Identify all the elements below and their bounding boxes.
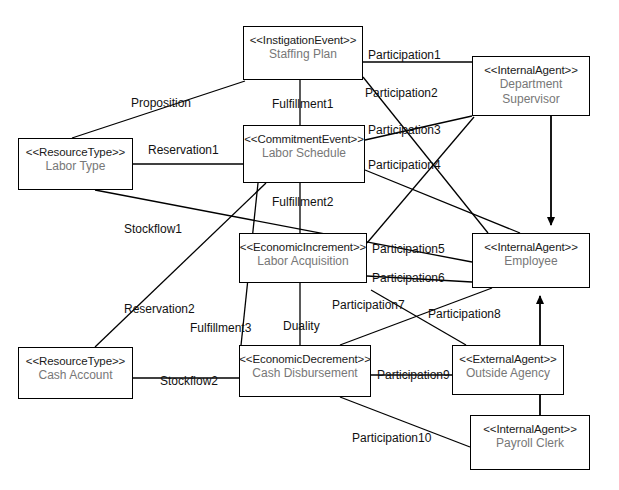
node-cash-account[interactable]: <<ResourceType>> Cash Account — [18, 347, 133, 399]
edge-label-participation6: Participation6 — [372, 272, 445, 285]
edge-label-fulfillment2: Fulfillment2 — [272, 196, 333, 209]
node-stereotype: <<ResourceType>> — [26, 145, 125, 159]
node-stereotype: <<ResourceType>> — [26, 354, 125, 368]
edge-label-fulfillment3: Fulfillment3 — [190, 322, 251, 335]
node-name: Labor Type — [46, 159, 106, 174]
node-stereotype: <<EconomicDecrement>> — [239, 352, 371, 366]
edge-label-participation5: Participation5 — [372, 243, 445, 256]
node-name: Labor Schedule — [262, 146, 346, 161]
edge-label-duality: Duality — [283, 320, 320, 333]
node-stereotype: <<InternalAgent>> — [484, 240, 578, 254]
edge-label-participation10: Participation10 — [352, 432, 431, 445]
node-name: Employee — [504, 254, 557, 269]
node-stereotype: <<ExternalAgent>> — [459, 352, 556, 366]
node-stereotype: <<CommitmentEvent>> — [244, 132, 364, 146]
edge-participation2 — [363, 77, 488, 233]
node-labor-type[interactable]: <<ResourceType>> Labor Type — [18, 138, 133, 190]
node-name-line2: Supervisor — [502, 92, 559, 107]
node-cash-disbursement[interactable]: <<EconomicDecrement>> Cash Disbursement — [239, 345, 371, 397]
node-name: Cash Disbursement — [252, 366, 357, 381]
node-name: Labor Acquisition — [257, 254, 348, 269]
edge-participation4 — [365, 170, 520, 233]
edge-label-participation3: Participation3 — [368, 124, 441, 137]
edge-label-participation7: Participation7 — [332, 299, 405, 312]
node-name: Cash Account — [38, 368, 112, 383]
edge-label-participation8: Participation8 — [428, 308, 501, 321]
edge-label-stockflow2: Stockflow2 — [160, 375, 218, 388]
node-stereotype: <<EconomicIncrement>> — [240, 240, 366, 254]
node-name-line1: Department — [500, 77, 563, 92]
edge-label-participation1: Participation1 — [368, 49, 441, 62]
edge-label-participation4: Participation4 — [368, 159, 441, 172]
node-staffing-plan[interactable]: <<InstigationEvent>> Staffing Plan — [243, 26, 363, 80]
node-labor-acquisition[interactable]: <<EconomicIncrement>> Labor Acquisition — [239, 233, 367, 283]
node-stereotype: <<InternalAgent>> — [483, 422, 577, 436]
edge-label-fulfillment1: Fulfillment1 — [272, 98, 333, 111]
node-name: Staffing Plan — [269, 47, 337, 62]
node-payroll-clerk[interactable]: <<InternalAgent>> Payroll Clerk — [470, 415, 590, 470]
node-outside-agency[interactable]: <<ExternalAgent>> Outside Agency — [452, 345, 564, 395]
node-stereotype: <<InstigationEvent>> — [250, 33, 357, 47]
edge-label-reservation1: Reservation1 — [148, 144, 219, 157]
node-stereotype: <<InternalAgent>> — [484, 63, 578, 77]
node-labor-schedule[interactable]: <<CommitmentEvent>> Labor Schedule — [243, 125, 365, 183]
node-name: Outside Agency — [466, 366, 550, 381]
node-name: Payroll Clerk — [496, 436, 564, 451]
node-department-supervisor[interactable]: <<InternalAgent>> Department Supervisor — [472, 56, 590, 116]
edge-label-stockflow1: Stockflow1 — [124, 223, 182, 236]
node-employee[interactable]: <<InternalAgent>> Employee — [472, 233, 590, 288]
edge-label-reservation2: Reservation2 — [124, 303, 195, 316]
edge-label-proposition: Proposition — [131, 97, 191, 110]
edge-label-participation9: Participation9 — [377, 369, 450, 382]
diagram-canvas: <<InstigationEvent>> Staffing Plan <<Int… — [0, 0, 619, 490]
edge-label-participation2: Participation2 — [365, 87, 438, 100]
